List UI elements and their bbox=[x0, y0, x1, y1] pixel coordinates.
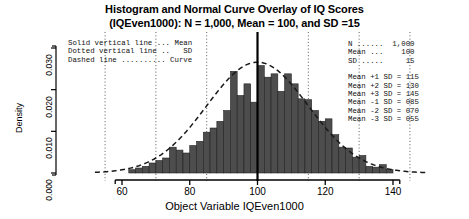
stats-spacer bbox=[348, 65, 419, 73]
x-tick-label: 100 bbox=[249, 186, 266, 197]
stat-sd-line: Mean +3 SD = 145 bbox=[348, 90, 419, 98]
x-tick-label: 60 bbox=[116, 186, 127, 197]
x-tick-label: 80 bbox=[184, 186, 195, 197]
chart-root: Histogram and Normal Curve Overlay of IQ… bbox=[0, 0, 469, 219]
legend-item: Solid vertical line ... Mean bbox=[68, 39, 192, 47]
legend-item: Dotted vertical line .. SD bbox=[68, 47, 192, 55]
stat-summary-line: N ...... 1,000 bbox=[348, 40, 419, 48]
x-axis-label: Object Variable IQEven1000 bbox=[0, 200, 469, 212]
legend-box: Solid vertical line ... MeanDotted verti… bbox=[68, 39, 192, 64]
stat-summary-line: SD ..... 15 bbox=[348, 57, 419, 65]
stat-sd-line: Mean +2 SD = 130 bbox=[348, 82, 419, 90]
stats-box: N ...... 1,000Mean ... 100SD ..... 15Mea… bbox=[348, 40, 419, 124]
stat-sd-line: Mean -2 SD = 070 bbox=[348, 107, 419, 115]
x-tick-label: 120 bbox=[317, 186, 334, 197]
stat-sd-line: Mean -1 SD = 085 bbox=[348, 98, 419, 106]
stat-summary-line: Mean ... 100 bbox=[348, 48, 419, 56]
stat-sd-line: Mean +1 SD = 115 bbox=[348, 73, 419, 81]
stat-sd-line: Mean -3 SD = 055 bbox=[348, 115, 419, 123]
x-tick-label: 140 bbox=[385, 186, 402, 197]
legend-item: Dashed line .......... Curve bbox=[68, 56, 192, 64]
